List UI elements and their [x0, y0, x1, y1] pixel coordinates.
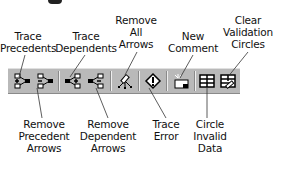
label-clear-validation-circles: Clear Validation Circles [216, 14, 280, 50]
label-remove-dependent-arrows: Remove Dependent Arrows [78, 118, 138, 154]
label-new-comment: New Comment [168, 30, 218, 54]
trace-error-icon [143, 72, 163, 90]
label-line: Remove [114, 14, 158, 26]
label-line: Dependents [55, 42, 117, 54]
label-line: Error [148, 130, 184, 142]
label-trace-precedents: Trace Precedents [0, 30, 56, 54]
label-line: Dependent [78, 130, 138, 142]
label-line: Circles [216, 38, 280, 50]
toolbar-separator [110, 71, 112, 91]
trace-precedents-icon [12, 72, 32, 90]
label-circle-invalid-data: Circle Invalid Data [190, 118, 230, 154]
label-line: Clear [216, 14, 280, 26]
label-line: Data [190, 142, 230, 154]
label-line: Invalid [190, 130, 230, 142]
label-trace-error: Trace Error [148, 118, 184, 142]
new-comment-icon [171, 72, 191, 90]
label-line: Precedents [0, 42, 56, 54]
new-comment-button[interactable] [171, 72, 191, 90]
label-remove-all-arrows: Remove All Arrows [114, 14, 158, 50]
remove-dependent-arrows-icon [86, 72, 106, 90]
trace-precedents-button[interactable] [12, 72, 32, 90]
toolbar-separator [58, 71, 60, 91]
label-line: Validation [216, 26, 280, 38]
trace-dependents-icon [63, 72, 83, 90]
trace-dependents-button[interactable] [63, 72, 83, 90]
toolbar-separator [138, 71, 140, 91]
label-line: Trace [148, 118, 184, 130]
label-line: Trace [55, 30, 117, 42]
clear-validation-circles-icon [218, 72, 238, 90]
remove-all-arrows-icon [115, 72, 135, 90]
label-line: Arrows [114, 38, 158, 50]
circle-invalid-data-icon [197, 72, 217, 90]
label-line: Comment [168, 42, 218, 54]
circle-invalid-data-button[interactable] [197, 72, 217, 90]
trace-error-button[interactable] [143, 72, 163, 90]
cropped-heading-fragment [48, 0, 62, 4]
remove-precedent-arrows-button[interactable] [35, 72, 55, 90]
label-line: Remove [16, 118, 72, 130]
clear-validation-circles-button[interactable] [218, 72, 238, 90]
label-line: Arrows [16, 142, 72, 154]
label-trace-dependents: Trace Dependents [55, 30, 117, 54]
label-remove-precedent-arrows: Remove Precedent Arrows [16, 118, 72, 154]
label-line: New [168, 30, 218, 42]
remove-all-arrows-button[interactable] [115, 72, 135, 90]
toolbar-separator [166, 71, 168, 91]
label-line: Remove [78, 118, 138, 130]
label-line: Trace [0, 30, 56, 42]
label-line: Circle [190, 118, 230, 130]
label-line: Precedent [16, 130, 72, 142]
auditing-toolbar [8, 68, 240, 94]
toolbar-separator [194, 71, 196, 91]
label-line: All [114, 26, 158, 38]
remove-precedent-arrows-icon [35, 72, 55, 90]
label-line: Arrows [78, 142, 138, 154]
remove-dependent-arrows-button[interactable] [86, 72, 106, 90]
